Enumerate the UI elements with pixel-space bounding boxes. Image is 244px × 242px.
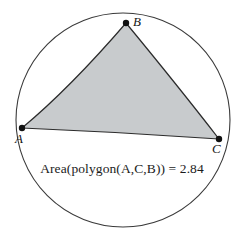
vertex-label-c: C <box>212 142 221 155</box>
vertex-label-a: A <box>15 132 23 145</box>
vertex-point-b[interactable] <box>123 20 129 26</box>
area-readout: Area(polygon(A,C,B)) = 2.84 <box>0 161 244 177</box>
geometry-canvas <box>0 0 244 242</box>
vertex-label-b: B <box>133 15 141 28</box>
geometry-figure: A B C Area(polygon(A,C,B)) = 2.84 <box>0 0 244 242</box>
